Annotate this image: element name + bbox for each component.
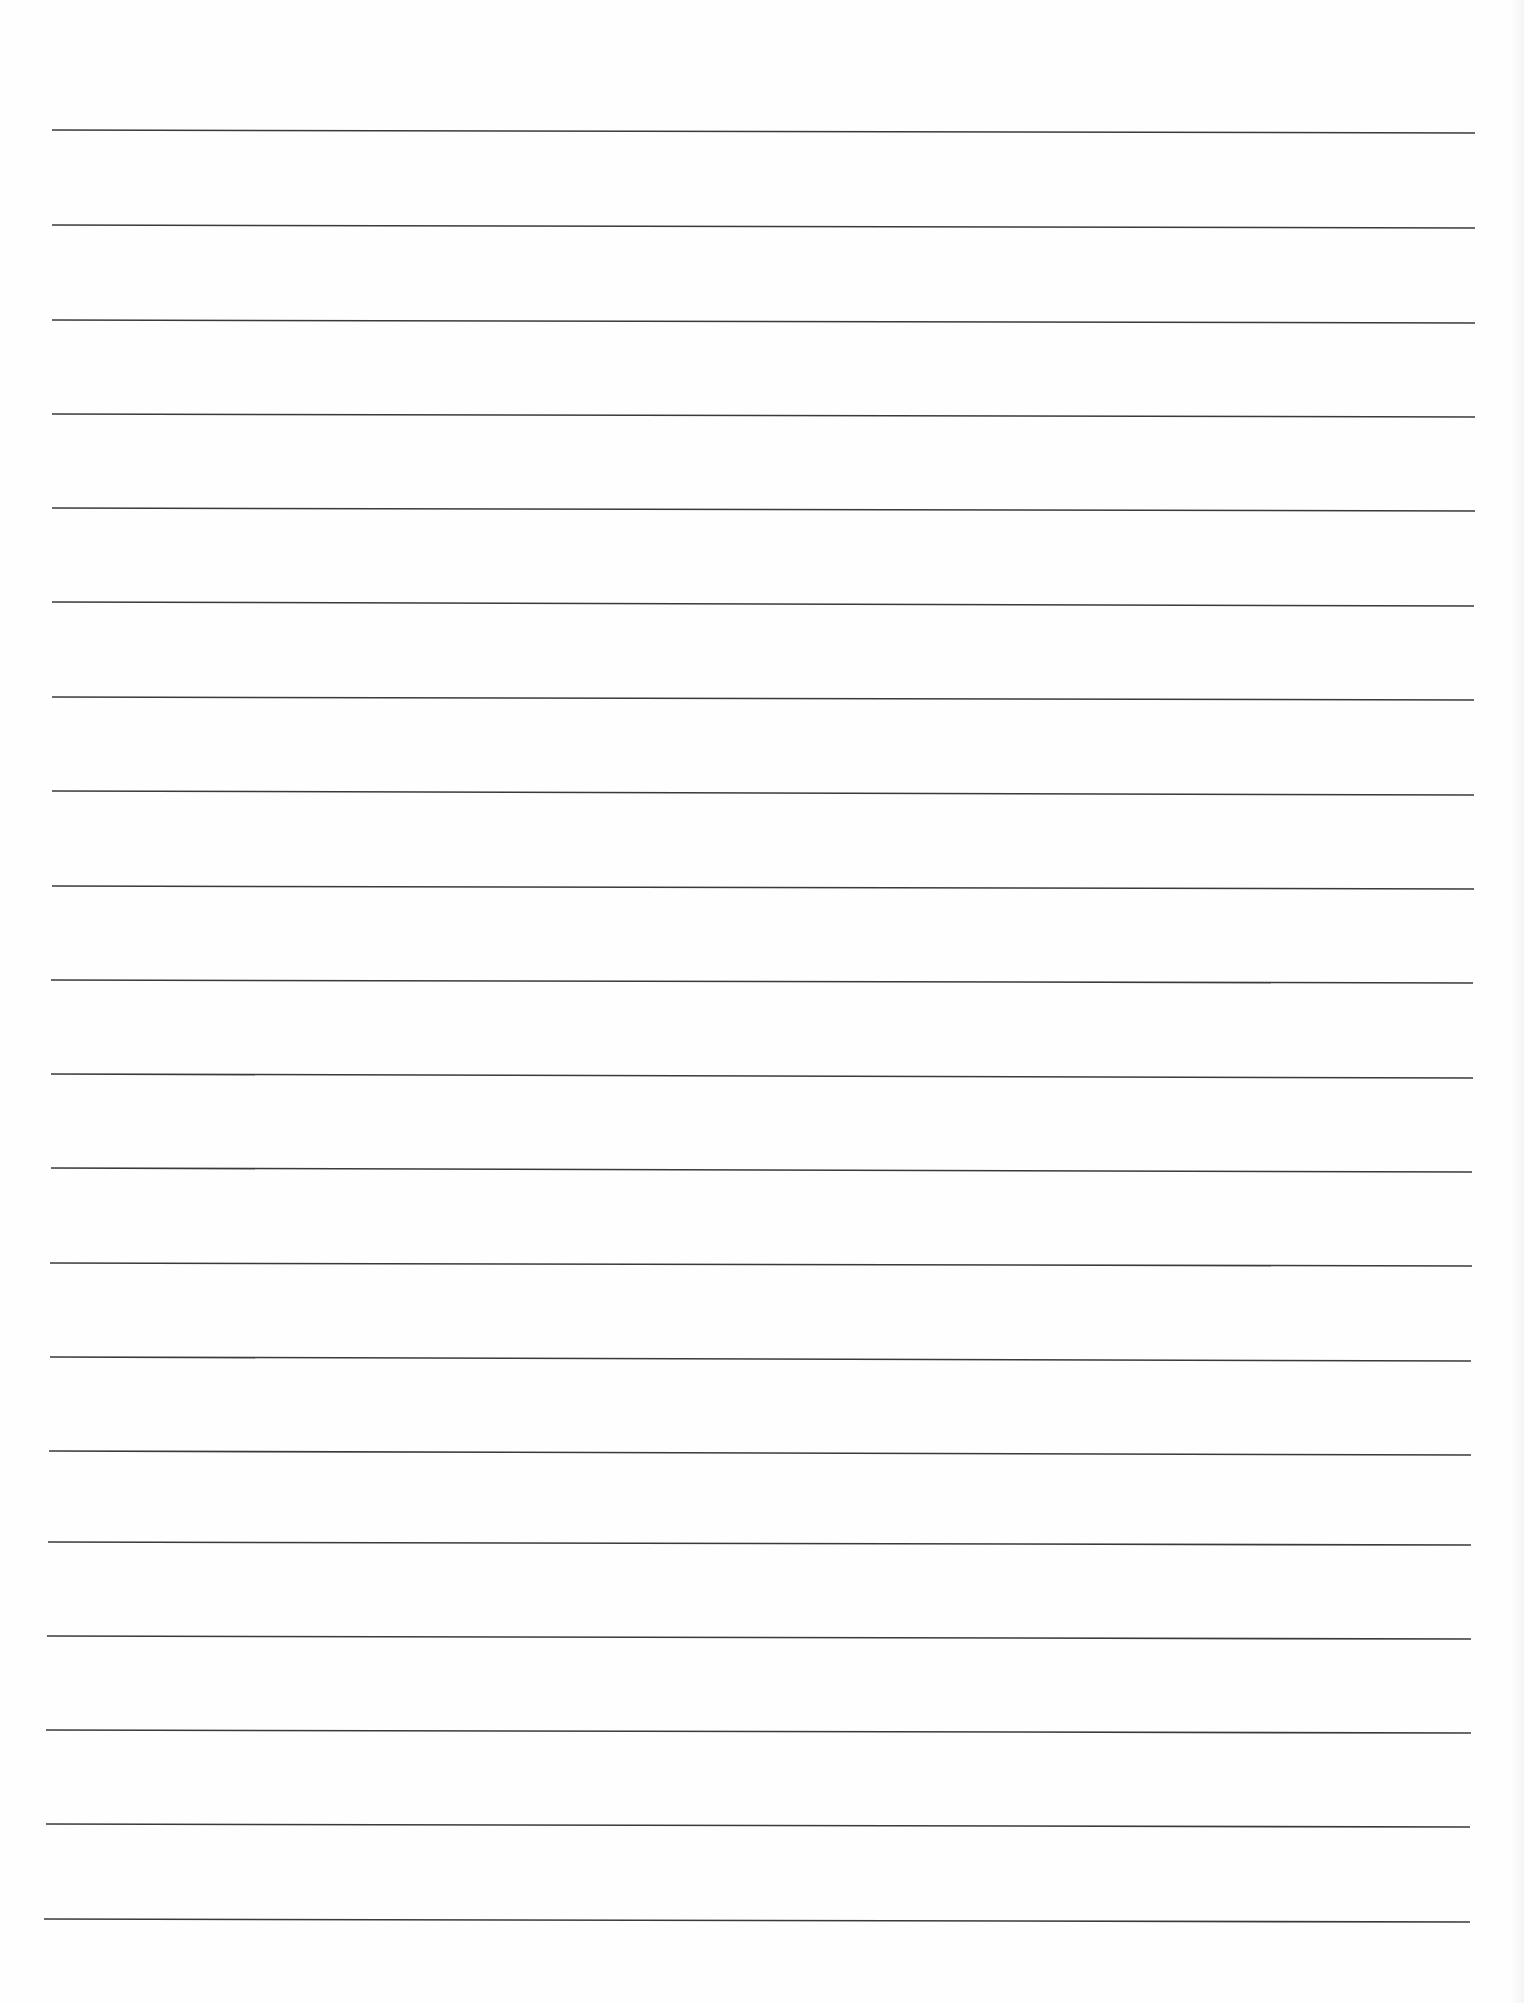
ruled-line xyxy=(47,1636,1471,1639)
ruled-line xyxy=(52,508,1475,511)
ruled-line xyxy=(50,1263,1472,1266)
ruled-line xyxy=(46,1824,1470,1827)
ruled-lines xyxy=(0,0,1524,2003)
ruled-line xyxy=(51,1168,1472,1172)
lined-paper-page xyxy=(0,0,1524,2003)
page-edge-shadow xyxy=(1510,0,1524,2003)
ruled-line xyxy=(48,1542,1471,1545)
ruled-line xyxy=(52,130,1475,133)
ruled-line xyxy=(44,1919,1470,1922)
ruled-line xyxy=(52,697,1474,700)
ruled-line xyxy=(49,1451,1471,1455)
ruled-line xyxy=(51,1074,1473,1078)
ruled-line xyxy=(52,414,1475,417)
ruled-line xyxy=(52,320,1475,323)
ruled-line xyxy=(52,791,1474,795)
ruled-line xyxy=(50,1357,1471,1361)
ruled-line xyxy=(52,602,1474,606)
ruled-line xyxy=(52,225,1475,228)
ruled-line xyxy=(51,980,1473,983)
ruled-line xyxy=(52,886,1474,889)
ruled-line xyxy=(46,1730,1471,1733)
